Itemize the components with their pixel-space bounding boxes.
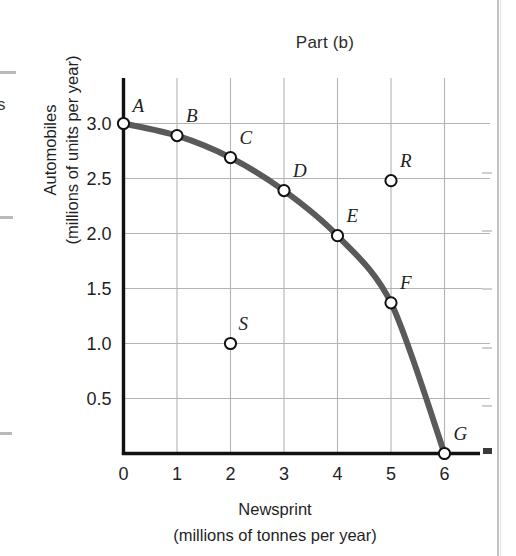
y-tick-label: 1.5 (86, 279, 111, 299)
x-tick-label: 4 (332, 464, 342, 484)
left-edge-dash-bottom (0, 432, 12, 435)
left-edge-text-fragment: s (0, 95, 6, 115)
x-tick-label: 5 (386, 464, 396, 484)
data-point-marker-F (385, 297, 396, 308)
y-tick-label: 0.5 (86, 389, 111, 409)
y-tick-label: 3.0 (86, 114, 111, 134)
page-edge-line (497, 0, 499, 556)
page-edge-line-secondary (500, 0, 501, 556)
extra-point-label-R: R (399, 150, 412, 171)
plot-area: 01234560.51.01.52.02.53.0 ABCDEFGRS (0, 0, 516, 556)
right-edge-dash-5 (482, 405, 492, 407)
right-edge-dash-2 (482, 230, 492, 232)
y-tick-label: 2.5 (86, 169, 111, 189)
data-point-label-G: G (454, 423, 468, 444)
data-point-marker-A (118, 118, 129, 129)
data-point-marker-E (332, 230, 343, 241)
x-axis-label: Newsprint (millions of tonnes per year) (100, 496, 450, 548)
y-tick-label: 1.0 (86, 334, 111, 354)
data-point-label-D: D (292, 160, 307, 181)
left-edge-dash-top (0, 71, 16, 74)
point-labels: ABCDEFGRS (131, 95, 468, 444)
x-tick-label: 0 (118, 464, 128, 484)
extra-point-label-S: S (239, 313, 249, 334)
data-point-marker-G (439, 448, 450, 459)
right-edge-dash-1 (482, 172, 492, 174)
data-point-label-A: A (131, 95, 145, 116)
figure-part-b: Part (b) 01234560.51.01.52.02.53.0 ABCDE… (0, 0, 516, 556)
data-point-label-F: F (399, 272, 412, 293)
x-tick-label: 2 (225, 464, 235, 484)
right-edge-mark (483, 448, 492, 454)
x-tick-label: 1 (172, 464, 182, 484)
data-point-label-B: B (186, 105, 198, 126)
y-tick-label: 2.0 (86, 224, 111, 244)
data-point-label-C: C (240, 127, 253, 148)
x-tick-label: 3 (279, 464, 289, 484)
extra-point-marker-S (225, 338, 236, 349)
data-point-label-E: E (346, 205, 359, 226)
data-point-marker-C (225, 152, 236, 163)
data-point-marker-D (278, 185, 289, 196)
left-edge-dash-middle (0, 216, 13, 219)
extra-point-marker-R (385, 175, 396, 186)
right-edge-dash-4 (482, 347, 492, 349)
x-tick-label: 6 (439, 464, 449, 484)
right-edge-dash-3 (482, 288, 492, 290)
x-axis-units-text: (millions of tonnes per year) (100, 522, 450, 548)
data-point-marker-B (171, 130, 182, 141)
x-axis-label-text: Newsprint (100, 496, 450, 522)
